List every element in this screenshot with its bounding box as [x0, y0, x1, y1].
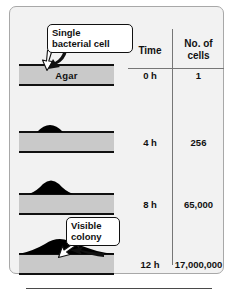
- callout-visible-colony: Visible colony: [66, 217, 120, 246]
- agar-row-12h: [19, 253, 114, 275]
- agar-row-0h: Agar: [19, 64, 114, 86]
- diagram-column: Agar: [10, 7, 130, 275]
- column-header-no-of-cells: No. of cells: [173, 38, 224, 61]
- colony-4h: [37, 122, 63, 132]
- agar-label: Agar: [19, 64, 114, 86]
- header-rule: [128, 68, 224, 69]
- agar-slab: [19, 253, 114, 275]
- agar-row-4h: [19, 131, 114, 153]
- column-header-line-1: No. of: [184, 38, 212, 49]
- bottom-rule: [26, 288, 212, 289]
- table-row-time-12h: 12 h: [128, 259, 172, 270]
- table-row-time-8h: 8 h: [128, 199, 172, 210]
- agar-slab: [19, 193, 114, 215]
- callout-line-1: Single: [52, 27, 128, 38]
- column-header-time: Time: [128, 45, 172, 57]
- table-row-count-4h: 256: [173, 137, 224, 148]
- table-row-count-12h: 17,000,000: [171, 259, 226, 270]
- colony-8h: [29, 180, 73, 194]
- callout-line-2: colony: [71, 231, 115, 242]
- callout-line-2: bacterial cell: [52, 38, 128, 49]
- agar-slab: [19, 131, 114, 153]
- colony-0h: [44, 59, 56, 65]
- table-row-count-8h: 65,000: [173, 199, 224, 210]
- data-table: Time No. of cells 0 h 1 4 h 256 8 h 65,0…: [128, 7, 225, 275]
- column-header-line-2: cells: [187, 50, 209, 61]
- table-row-count-0h: 1: [173, 70, 224, 81]
- table-row-time-0h: 0 h: [128, 70, 172, 81]
- table-row-time-4h: 4 h: [128, 137, 172, 148]
- callout-single-bacterial-cell: Single bacterial cell: [47, 24, 133, 53]
- callout-line-1: Visible: [71, 220, 115, 231]
- agar-row-8h: [19, 193, 114, 215]
- figure-panel: Agar: [9, 6, 224, 274]
